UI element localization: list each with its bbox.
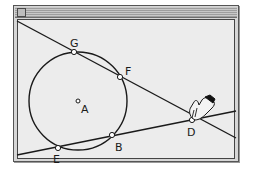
point-B[interactable] [109, 132, 114, 137]
line-secant-EBD[interactable] [17, 111, 236, 155]
point-G[interactable] [71, 49, 76, 54]
label-B: B [115, 141, 123, 154]
label-G: G [70, 37, 79, 50]
point-F[interactable] [117, 74, 122, 79]
point-A[interactable] [76, 99, 80, 103]
label-E: E [53, 153, 60, 166]
line-secant-GFD[interactable] [17, 21, 236, 138]
label-D: D [187, 126, 195, 139]
label-F: F [125, 65, 131, 78]
label-A: A [81, 103, 89, 116]
geometry-figure: G F D B E A [0, 0, 253, 182]
point-E[interactable] [55, 145, 60, 150]
